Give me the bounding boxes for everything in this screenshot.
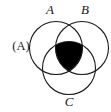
venn-figure: (A) A B C	[0, 0, 111, 112]
venn-diagram-canvas	[0, 0, 111, 112]
set-label-a: A	[43, 3, 57, 16]
figure-caption-label: (A)	[6, 39, 36, 53]
set-label-b: B	[78, 3, 92, 16]
set-label-c: C	[62, 95, 76, 108]
figure-background	[0, 0, 111, 112]
